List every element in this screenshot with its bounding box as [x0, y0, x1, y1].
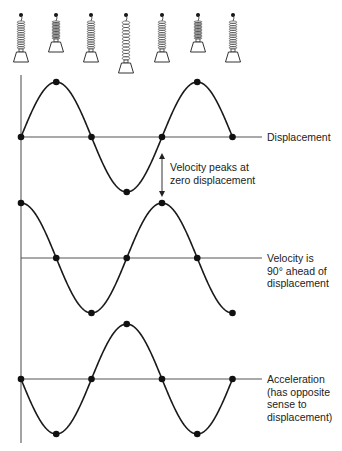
velocity-point-min — [88, 310, 95, 317]
displacement-point-min — [123, 189, 130, 196]
velocity-label: Velocity is 90° ahead of displacement — [267, 252, 329, 290]
velocity-point-min — [229, 310, 236, 317]
waveform-graphs — [18, 79, 262, 438]
acceleration-point-min — [194, 431, 201, 438]
displacement-point-max — [53, 79, 60, 86]
spring-mass-icon-rest — [14, 13, 29, 62]
spring-mass-illustrations — [14, 13, 241, 73]
spring-mass-icon-rest — [84, 13, 99, 62]
displacement-point-max — [194, 79, 201, 86]
displacement-point-zero — [159, 134, 166, 141]
spring-mass-icon-rest — [226, 13, 241, 62]
acceleration-point-zero — [159, 376, 166, 383]
spring-mass-icon-compressed — [191, 13, 206, 52]
double-arrow-icon — [159, 153, 165, 197]
displacement-point-zero — [18, 134, 25, 141]
acceleration-graph — [18, 321, 262, 438]
velocity-point-max — [159, 200, 166, 207]
acceleration-point-zero — [88, 376, 95, 383]
acceleration-point-zero — [18, 376, 25, 383]
acceleration-label: Acceleration (has opposite sense to disp… — [267, 373, 332, 423]
velocity-point-zero — [194, 255, 201, 262]
spring-mass-icon-extended — [119, 13, 134, 73]
spring-mass-icon-rest — [155, 13, 170, 62]
acceleration-point-min — [53, 431, 60, 438]
spring-mass-icon-compressed — [49, 13, 64, 52]
displacement-point-zero — [229, 134, 236, 141]
acceleration-point-max — [123, 321, 130, 328]
velocity-graph — [18, 200, 262, 317]
displacement-point-zero — [88, 134, 95, 141]
velocity-point-zero — [123, 255, 130, 262]
displacement-label: Displacement — [267, 131, 331, 144]
velocity-peaks-annotation: Velocity peaks at zero displacement — [170, 161, 255, 186]
acceleration-point-zero — [229, 376, 236, 383]
velocity-point-max — [18, 200, 25, 207]
velocity-point-zero — [53, 255, 60, 262]
